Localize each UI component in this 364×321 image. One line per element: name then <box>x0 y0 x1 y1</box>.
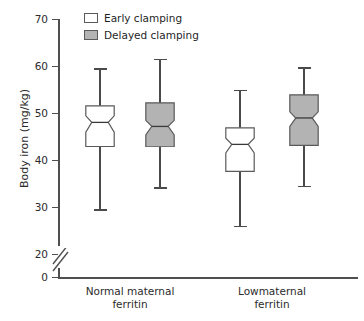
whisker-cap-lower <box>154 187 167 188</box>
box-plot-figure: 7060504030200 Body iron (mg/kg) Early cl… <box>0 0 364 321</box>
axis-break-icon <box>50 248 72 274</box>
y-tick-mark-20 <box>52 254 58 255</box>
whisker-cap-upper <box>234 90 247 91</box>
y-tick-label-70: 70 <box>2 14 48 25</box>
whisker-cap-upper <box>298 67 311 68</box>
whisker-cap-lower <box>94 209 107 210</box>
box-outline <box>86 106 114 147</box>
y-axis-line <box>58 19 60 246</box>
box-plot-early-clamping-2 <box>225 0 255 277</box>
box-plot-early-clamping-1 <box>85 0 115 277</box>
whisker-cap-upper <box>94 68 107 69</box>
notched-box-shape <box>225 127 255 172</box>
y-axis-title: Body iron (mg/kg) <box>18 59 31 219</box>
whisker-cap-upper <box>154 59 167 60</box>
notched-box-shape <box>85 105 115 147</box>
x-category-label-1: Normal maternal ferritin <box>70 285 190 311</box>
y-tick-mark-40 <box>52 160 58 161</box>
y-tick-mark-30 <box>52 207 58 208</box>
box-plot-delayed-clamping-2 <box>289 0 319 277</box>
box-plot-delayed-clamping-1 <box>145 0 175 277</box>
y-tick-mark-70 <box>52 19 58 20</box>
x-axis-line <box>58 277 358 279</box>
box-outline <box>146 103 174 147</box>
notched-box-shape <box>145 102 175 148</box>
whisker-cap-lower <box>298 186 311 187</box>
notched-box-shape <box>289 94 319 146</box>
box-outline <box>290 95 318 146</box>
y-tick-label-20: 20 <box>2 249 48 260</box>
box-outline <box>226 128 254 172</box>
y-tick-mark-60 <box>52 66 58 67</box>
x-category-label-2: Lowmaternal ferritin <box>212 285 332 311</box>
y-tick-mark-0 <box>52 277 58 278</box>
y-tick-label-0: 0 <box>2 272 48 283</box>
y-tick-mark-50 <box>52 113 58 114</box>
whisker-cap-lower <box>234 226 247 227</box>
